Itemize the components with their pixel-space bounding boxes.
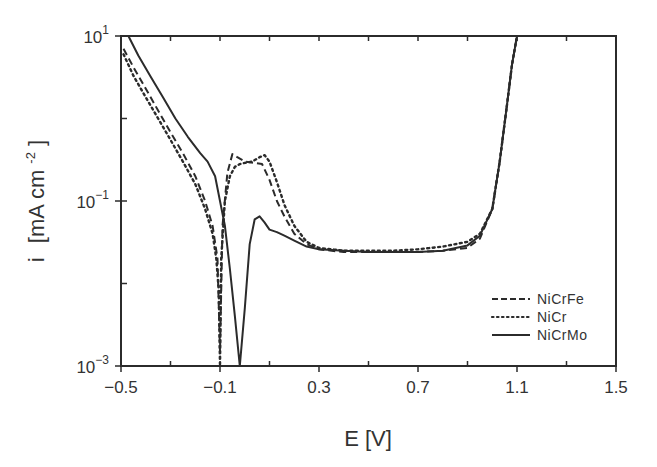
series-nicrmo: [128, 36, 517, 366]
series-layer: [124, 36, 518, 366]
x-tick-label: 1.5: [604, 378, 628, 397]
series-nicr: [124, 36, 518, 366]
x-tick-label: 0.3: [307, 378, 331, 397]
legend-label: NiCrMo: [537, 327, 587, 343]
y-axis-title-unit: [mA cm: [24, 170, 49, 243]
x-tick-label: 0.7: [406, 378, 430, 397]
y-axis-title: i [mA cm -2 ]: [15, 140, 49, 262]
y-tick-label: 101: [83, 23, 109, 47]
x-tick-label: −0.5: [104, 378, 138, 397]
y-tick-label: 10−3: [76, 353, 109, 377]
y-axis-title-exp: -2: [23, 152, 38, 164]
polarization-chart: −0.5−0.10.30.71.11.5 10−310−1101 NiCrFeN…: [0, 0, 657, 467]
y-axis-title-symbol: i: [24, 257, 49, 262]
y-tick-label: 10−1: [76, 188, 109, 212]
x-tick-label: 1.1: [505, 378, 529, 397]
legend-label: NiCrFe: [537, 291, 584, 307]
x-tick-label: −0.1: [203, 378, 237, 397]
x-axis-title: E [V]: [344, 426, 392, 451]
svg-text:i [mA cm -2: i [mA cm -2 ]: [15, 140, 49, 262]
legend-label: NiCr: [537, 309, 567, 325]
y-axis-title-close: ]: [24, 140, 49, 146]
series-nicrfe: [124, 36, 518, 352]
legend: NiCrFeNiCrNiCrMo: [492, 291, 587, 343]
y-axis-ticks: 10−310−1101: [76, 23, 127, 377]
